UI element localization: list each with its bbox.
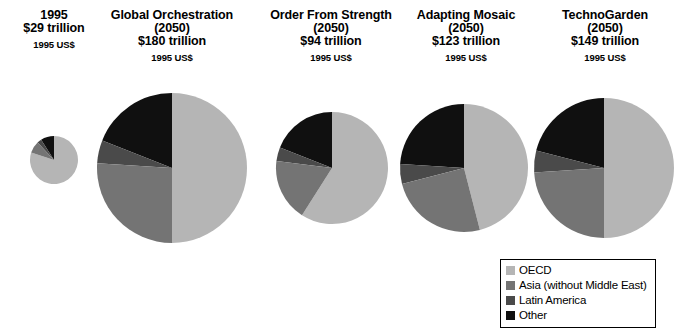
panel-header: Adapting Mosaic (2050) $123 trillion 199… [404,0,528,64]
legend-item: Latin America [506,293,650,308]
panel-units: 1995 US$ [4,38,104,51]
panel-value: $29 trillion [4,22,104,35]
panel-header: 1995 $29 trillion 1995 US$ [4,0,104,51]
legend-item: OECD [506,263,650,278]
panel-header: Global Orchestration (2050) $180 trillio… [104,0,240,64]
panel-units: 1995 US$ [258,51,404,64]
pie-adapting-mosaic [399,103,529,233]
legend-swatch-asia [506,281,515,290]
panel-global-orchestration: Global Orchestration (2050) $180 trillio… [104,0,240,64]
panel-header: Order From Strength (2050) $94 trillion … [258,0,404,64]
legend-label: Asia (without Middle East) [519,279,647,292]
legend-swatch-oecd [506,266,515,275]
legend-swatch-latin-america [506,296,515,305]
panel-units: 1995 US$ [532,51,678,64]
legend-swatch-other [506,311,515,320]
panel-units: 1995 US$ [104,51,240,64]
figure-canvas: 1995 $29 trillion 1995 US$ Global Orches… [0,0,688,334]
pie-order-from-strength [275,111,389,225]
panel-order-from-strength: Order From Strength (2050) $94 trillion … [258,0,404,64]
panel-units: 1995 US$ [404,51,528,64]
panel-value: $94 trillion [258,35,404,48]
region-legend: OECD Asia (without Middle East) Latin Am… [500,259,656,328]
legend-label: OECD [519,264,551,277]
panel-header: TechnoGarden (2050) $149 trillion 1995 U… [532,0,678,64]
pie-1995 [29,135,79,185]
panel-techno-garden: TechnoGarden (2050) $149 trillion 1995 U… [532,0,678,64]
panel-1995: 1995 $29 trillion 1995 US$ [4,0,104,51]
pie-techno-garden [533,97,675,239]
legend-label: Latin America [519,294,586,307]
panel-value: $180 trillion [104,35,240,48]
pie-global-orchestration [96,92,248,244]
panel-value: $123 trillion [404,35,528,48]
panel-value: $149 trillion [532,35,678,48]
panel-adapting-mosaic: Adapting Mosaic (2050) $123 trillion 199… [404,0,528,64]
legend-label: Other [519,309,547,322]
legend-item: Other [506,308,650,323]
legend-item: Asia (without Middle East) [506,278,650,293]
